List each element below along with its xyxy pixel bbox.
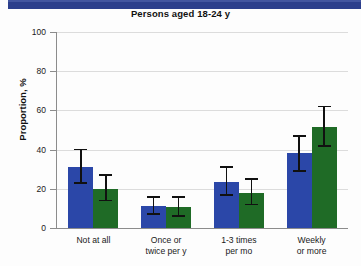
error-bar-cap-upper [220, 166, 233, 168]
y-axis-tick [50, 150, 56, 151]
error-bar-cap-upper [172, 196, 185, 198]
error-bar-line [251, 179, 253, 204]
error-bar-cap-lower [220, 194, 233, 196]
error-bar-line [226, 167, 228, 194]
gridline [57, 110, 348, 111]
error-bar-line [323, 106, 325, 145]
banner-highlight [8, 0, 361, 2]
gridline [57, 71, 348, 72]
chart-figure: Persons aged 18-24 y Proportion, % 02040… [0, 0, 361, 266]
y-axis-tick-label: 20 [6, 185, 46, 193]
y-axis-tick [50, 110, 56, 111]
plot-area [57, 32, 348, 228]
y-axis-tick [50, 189, 56, 190]
error-bar-cap-upper [74, 149, 87, 151]
error-bar-line [105, 175, 107, 200]
y-axis-tick [50, 71, 56, 72]
y-axis-tick-label: 80 [6, 67, 46, 75]
error-bar-cap-upper [245, 178, 258, 180]
error-bar-cap-lower [293, 170, 306, 172]
x-axis-line [56, 228, 348, 229]
error-bar-cap-lower [318, 145, 331, 147]
x-axis-label: Weeklyor more [266, 235, 358, 257]
error-bar-line [80, 150, 82, 183]
y-axis-tick-label: 40 [6, 146, 46, 154]
y-axis-tick-label: 0 [6, 224, 46, 232]
error-bar-cap-lower [245, 204, 258, 206]
gridline [57, 150, 348, 151]
x-axis-label-line: Weekly [266, 235, 358, 246]
error-bar-cap-lower [172, 215, 185, 217]
y-axis-tick [50, 32, 56, 33]
x-axis-label-line: or more [266, 246, 358, 257]
error-bar-cap-upper [99, 174, 112, 176]
error-bar-cap-upper [147, 196, 160, 198]
gridline [57, 32, 348, 33]
error-bar-cap-upper [318, 106, 331, 108]
error-bar-cap-upper [293, 135, 306, 137]
error-bar-cap-lower [147, 213, 160, 215]
error-bar-line [298, 136, 300, 171]
chart-title: Persons aged 18-24 y [0, 8, 361, 19]
error-bar-line [153, 197, 155, 215]
y-axis-tick-label: 100 [6, 28, 46, 36]
error-bar-cap-lower [99, 200, 112, 202]
error-bar-cap-lower [74, 182, 87, 184]
y-axis-tick-label: 60 [6, 106, 46, 114]
error-bar-line [178, 197, 180, 217]
y-axis-tick [50, 228, 56, 229]
